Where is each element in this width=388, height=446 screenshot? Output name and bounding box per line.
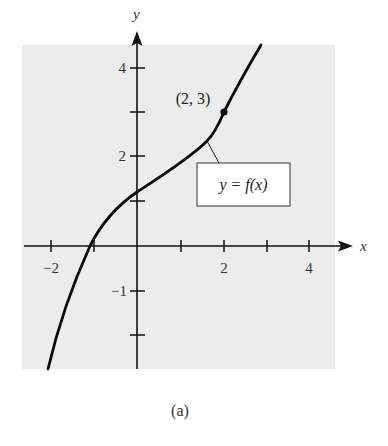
figure-caption: (a)	[171, 402, 189, 420]
x-tick-label-4: 4	[305, 260, 313, 276]
x-tick-label-neg2: −2	[43, 260, 59, 276]
legend-label: y = f(x)	[217, 176, 267, 194]
point-label: (2, 3)	[176, 90, 211, 108]
x-axis-label: x	[359, 238, 367, 254]
chart: x y −2 2 4 4 2 −1 (2, 3) y = f(x) (a)	[0, 0, 388, 446]
x-tick-label-2: 2	[220, 260, 228, 276]
point-marker	[220, 108, 227, 115]
y-tick-label-neg1: −1	[111, 283, 127, 299]
y-tick-label-2: 2	[119, 148, 127, 164]
y-tick-label-4: 4	[119, 60, 127, 76]
y-axis-label: y	[131, 6, 140, 22]
